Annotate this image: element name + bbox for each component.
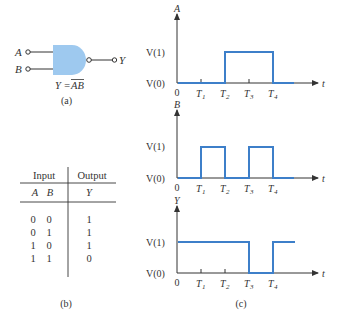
svg-text:1: 1: [86, 214, 91, 225]
svg-text:3: 3: [249, 283, 254, 291]
svg-text:4: 4: [274, 93, 278, 101]
svg-text:1: 1: [202, 283, 206, 291]
input-a-terminal: [26, 50, 30, 54]
timing-plot-y: Y V(1) V(0) 0 T1 T2 T3 T4 t: [146, 195, 325, 291]
table-row: 1 0 1: [30, 240, 91, 251]
v0-label: V(0): [146, 78, 165, 90]
input-a-label: A: [14, 46, 22, 58]
svg-text:3: 3: [249, 188, 254, 196]
nand-figure: A B Y Y = AB (a) Input Output A B Y 0 0 …: [0, 0, 340, 322]
svg-text:1: 1: [202, 188, 206, 196]
svg-text:1: 1: [46, 253, 51, 264]
svg-text:2: 2: [226, 93, 230, 101]
svg-text:V(0): V(0): [146, 268, 165, 280]
svg-text:0: 0: [175, 182, 180, 193]
svg-text:0: 0: [175, 87, 180, 98]
svg-text:0: 0: [30, 214, 35, 225]
output-y-label: Y: [119, 54, 127, 66]
gate-body: [53, 45, 86, 75]
input-b-terminal: [26, 67, 30, 71]
col-a-header: A: [31, 187, 39, 198]
svg-text:V(0): V(0): [146, 173, 165, 185]
waveform-y: [178, 242, 295, 273]
table-row: 1 1 0: [30, 253, 91, 264]
svg-text:V(1): V(1): [146, 237, 165, 249]
svg-text:0: 0: [30, 227, 35, 238]
timing-plot-a: A V(1) V(0) 0 T1 T2 T3 T4 t: [146, 3, 325, 101]
nand-gate-symbol: A B Y Y = AB (a): [14, 45, 127, 107]
inverter-bubble: [87, 58, 92, 63]
col-y-header: Y: [86, 187, 93, 198]
svg-text:0: 0: [86, 253, 91, 264]
v1-label: V(1): [146, 47, 165, 59]
svg-text:t: t: [322, 268, 325, 279]
svg-text:0: 0: [46, 214, 51, 225]
header-input: Input: [33, 170, 55, 181]
timing-plot-b: B V(1) V(0) 0 T1 T2 T3 T4 t: [146, 99, 325, 196]
waveform-a: [178, 52, 294, 83]
table-row: 0 1 1: [30, 227, 91, 238]
signal-y-label: Y: [174, 195, 181, 206]
caption-c: (c): [235, 298, 246, 310]
svg-text:1: 1: [202, 93, 206, 101]
caption-a: (a): [61, 95, 72, 107]
svg-text:1: 1: [30, 253, 35, 264]
svg-text:1: 1: [30, 240, 35, 251]
svg-text:1: 1: [86, 227, 91, 238]
svg-text:2: 2: [226, 188, 230, 196]
svg-text:0: 0: [46, 240, 51, 251]
col-b-header: B: [47, 187, 54, 198]
header-output: Output: [77, 170, 106, 181]
svg-text:V(1): V(1): [146, 141, 165, 153]
table-row: 0 0 1: [30, 214, 91, 225]
svg-text:4: 4: [274, 283, 278, 291]
svg-text:1: 1: [46, 227, 51, 238]
svg-text:2: 2: [226, 283, 230, 291]
output-y-terminal: [112, 58, 116, 62]
waveform-b: [178, 147, 294, 178]
svg-text:4: 4: [274, 188, 278, 196]
equation-lhs: Y =: [55, 80, 71, 91]
svg-text:1: 1: [86, 240, 91, 251]
equation-rhs: AB: [70, 80, 84, 91]
input-b-label: B: [15, 63, 22, 75]
svg-text:t: t: [322, 78, 325, 89]
svg-text:0: 0: [175, 277, 180, 288]
truth-table: Input Output A B Y 0 0 1 0 1 1 1 0 1 1 1…: [20, 167, 116, 310]
caption-b: (b): [60, 298, 72, 310]
signal-b-label: B: [174, 99, 180, 110]
svg-text:t: t: [322, 173, 325, 184]
svg-text:3: 3: [249, 93, 254, 101]
signal-a-label: A: [173, 3, 181, 14]
